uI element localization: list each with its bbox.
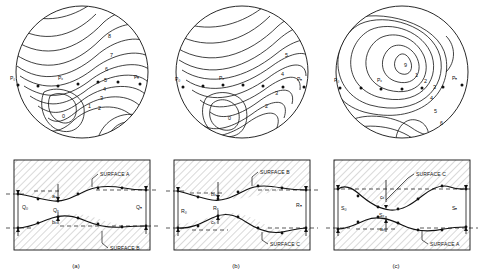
- map-c-point-px: Pₓ: [377, 77, 382, 83]
- section-c-label-sn: Sₙ: [452, 205, 457, 211]
- figure-structural-contour-maps-and-cross-sections: P₀ Pₓ Pₙ 8 7 6 5 4 3 2 1 0: [0, 0, 484, 276]
- section-b-surface-b-label: SURFACE B: [260, 169, 290, 175]
- map-a-point-pn: Pₙ: [134, 74, 139, 80]
- map-c-contour-9: 9: [404, 62, 407, 68]
- section-a-hatching: [14, 160, 150, 250]
- section-c-surface-c-label: SURFACE C: [416, 171, 446, 177]
- section-a-label-qx: Qₓ: [53, 207, 59, 213]
- section-a-surface-b-label: SURFACE B: [110, 245, 140, 251]
- map-c-point-p0: P₀: [334, 77, 339, 83]
- panel-c-caption: (c): [393, 263, 400, 269]
- map-b-contours: [176, 8, 316, 137]
- section-b-label-bx: bₓ: [211, 191, 216, 197]
- section-a-label-bx: bₓ: [52, 219, 57, 225]
- section-a-label-ax: aₓ: [52, 193, 57, 199]
- section-b-surface-c-label: SURFACE C: [270, 241, 300, 247]
- section-c-label-cx: cₓ: [380, 194, 385, 200]
- map-a-contour-6: 6: [105, 66, 108, 72]
- map-c-contour-4: 4: [430, 95, 433, 101]
- map-c-contour-2: 2: [424, 78, 427, 84]
- map-c-wellpoints: [339, 84, 464, 91]
- map-b-wellpoints: [182, 84, 306, 89]
- map-a-contour-8: 8: [108, 33, 111, 39]
- map-a-contour-1: 1: [88, 103, 91, 109]
- section-b-label-rn: Rₙ: [296, 202, 302, 208]
- section-a-label-qn: Qₙ: [136, 204, 142, 210]
- contour-map-a: P₀ Pₓ Pₙ 8 7 6 5 4 3 2 1 0: [10, 6, 151, 138]
- map-a-contour-0: 0: [62, 113, 65, 119]
- section-b-label-cx: cₓ: [211, 219, 216, 225]
- section-b-label-r0: R₀: [181, 208, 187, 214]
- contour-map-c: P₀ Pₓ Pₙ 9 1 2 3 4 5 6: [327, 6, 468, 138]
- cross-section-a: Q₀ Qₓ Qₙ aₓ bₓ SURFACE A SURFACE B (a): [6, 160, 158, 269]
- contour-map-b: P₀ Pₓ Pₙ 5 4 3 2 0: [175, 6, 316, 138]
- map-b-contour-4: 4: [281, 71, 284, 77]
- map-a-contour-4: 4: [103, 86, 106, 92]
- map-b-contour-5: 5: [285, 52, 288, 58]
- map-c-contour-1: 1: [415, 72, 418, 78]
- figure-canvas: P₀ Pₓ Pₙ 8 7 6 5 4 3 2 1 0: [0, 0, 484, 276]
- section-c-label-sx: Sₓ: [379, 212, 384, 218]
- panel-b-caption: (b): [232, 263, 239, 269]
- section-a-label-q0: Q₀: [22, 204, 28, 210]
- section-c-label-ax: aₓ: [380, 226, 385, 232]
- map-c-contour-3: 3: [433, 84, 436, 90]
- map-c-contour-6: 6: [440, 120, 443, 126]
- map-b-contour-3: 3: [275, 90, 278, 96]
- section-c-hatching: [334, 160, 470, 250]
- section-b-label-rx: Rₓ: [213, 205, 219, 211]
- map-a-contour-7: 7: [110, 52, 113, 58]
- map-c-contours: [327, 16, 454, 138]
- map-c-point-pn: Pₙ: [452, 75, 457, 81]
- cross-section-c: S₀ Sₓ Sₙ cₓ aₓ SURFACE C SURFACE A (c): [326, 160, 478, 269]
- map-a-point-p0: P₀: [10, 75, 15, 81]
- map-a-contour-2: 2: [98, 105, 101, 111]
- map-b-contour-0: 0: [228, 115, 231, 121]
- map-b-contour-2: 2: [265, 103, 268, 109]
- section-c-surface-a-label: SURFACE A: [430, 241, 460, 247]
- section-c-label-s0: S₀: [341, 205, 347, 211]
- map-b-point-pn: Pₙ: [297, 76, 302, 82]
- section-a-surface-a-label: SURFACE A: [100, 171, 130, 177]
- map-b-point-px: Pₓ: [219, 75, 224, 81]
- panel-a-caption: (a): [72, 263, 79, 269]
- map-c-contour-5: 5: [434, 108, 437, 114]
- map-a-contour-5: 5: [104, 77, 107, 83]
- cross-section-b: R₀ Rₓ Rₙ bₓ cₓ SURFACE B SURFACE C (b): [166, 160, 318, 269]
- map-a-contour-3: 3: [100, 95, 103, 101]
- map-a-point-px: Pₓ: [58, 75, 63, 81]
- map-b-point-p0: P₀: [175, 76, 180, 82]
